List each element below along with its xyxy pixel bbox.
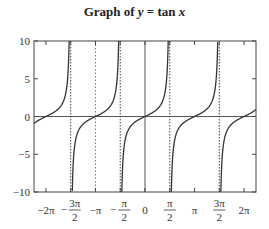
x-tick-label: −π xyxy=(90,204,102,216)
x-tick-label: 0 xyxy=(142,204,148,216)
x-tick-sign: − xyxy=(61,203,67,215)
x-tick-denominator: 2 xyxy=(121,211,127,223)
x-tick-denominator: 2 xyxy=(167,211,173,223)
x-tick-numerator: 3π xyxy=(69,197,81,209)
y-tick-label: 10 xyxy=(19,35,31,47)
x-tick-denominator: 2 xyxy=(217,211,223,223)
plot-area: 1050−5−10−2π−3π2−π−π20π2π3π22π xyxy=(0,0,269,229)
x-tick-label: π xyxy=(192,204,198,216)
x-tick-sign: − xyxy=(110,203,116,215)
x-tick-numerator: π xyxy=(121,197,127,209)
x-tick-denominator: 2 xyxy=(72,211,78,223)
y-tick-label: −10 xyxy=(13,186,31,198)
x-tick-label: 2π xyxy=(239,204,251,216)
y-tick-label: 5 xyxy=(25,73,31,85)
x-tick-numerator: π xyxy=(167,197,173,209)
x-tick-numerator: 3π xyxy=(214,197,226,209)
y-tick-label: −5 xyxy=(18,148,30,160)
x-tick-label: −2π xyxy=(37,204,55,216)
y-tick-label: 0 xyxy=(25,111,31,123)
